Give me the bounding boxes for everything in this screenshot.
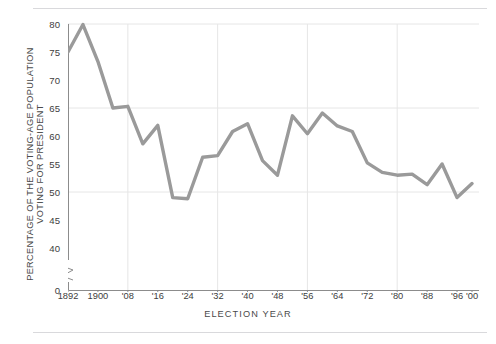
y-axis-tick-label: 55 bbox=[34, 159, 60, 170]
data-line-turnout bbox=[68, 25, 472, 199]
x-axis-tick-label: '72 bbox=[361, 291, 373, 301]
y-axis-break-marker bbox=[68, 266, 73, 280]
top-rule bbox=[33, 8, 487, 9]
y-axis-tick-label: 70 bbox=[34, 75, 60, 86]
axes bbox=[68, 24, 479, 292]
y-axis-tick-label: 40 bbox=[34, 243, 60, 254]
x-axis-tick-label: '32 bbox=[212, 291, 224, 301]
x-axis-tick-label: '96 bbox=[451, 291, 463, 301]
y-axis-tick-label: 65 bbox=[34, 103, 60, 114]
x-axis-tick-label: '56 bbox=[301, 291, 313, 301]
x-axis-title: ELECTION YEAR bbox=[0, 309, 496, 319]
x-axis-tick-label: 1900 bbox=[88, 291, 109, 301]
x-axis-tick-label: 1892 bbox=[58, 291, 79, 301]
plot-area bbox=[68, 22, 479, 292]
y-axis-tick-labels: 0404550556065707580 bbox=[34, 0, 60, 344]
y-axis-tick-label: 75 bbox=[34, 47, 60, 58]
y-axis-tick-label: 80 bbox=[34, 19, 60, 30]
x-axis-tick-label: '40 bbox=[241, 291, 253, 301]
gridlines bbox=[68, 24, 479, 290]
chart-figure: PERCENTAGE OF THE VOTING-AGE POPULATION … bbox=[0, 0, 496, 344]
x-axis-tick-label: '08 bbox=[122, 291, 134, 301]
x-axis-tick-label: '80 bbox=[391, 291, 403, 301]
y-axis-tick-label: 50 bbox=[34, 187, 60, 198]
bottom-rule bbox=[33, 332, 487, 333]
x-axis-tick-label: '24 bbox=[182, 291, 194, 301]
y-axis-tick-label: 0 bbox=[34, 285, 60, 296]
chart-svg bbox=[68, 22, 479, 292]
x-axis-tick-label: '16 bbox=[152, 291, 164, 301]
x-axis-tick-label: '00 bbox=[466, 291, 478, 301]
y-axis-tick-label: 45 bbox=[34, 215, 60, 226]
x-axis-tick-label: '48 bbox=[271, 291, 283, 301]
x-axis-tick-label: '88 bbox=[421, 291, 433, 301]
x-axis-tick-label: '64 bbox=[331, 291, 343, 301]
y-axis-tick-label: 60 bbox=[34, 131, 60, 142]
